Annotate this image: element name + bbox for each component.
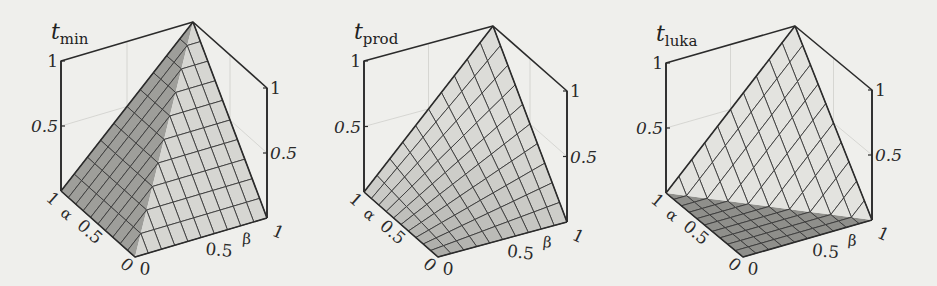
surface-plot-prod: 0.510.5100.51α00.51βtprod [334,19,597,279]
beta-tick: 0 [442,258,455,279]
z-tick-left: 1 [652,53,663,73]
z-tick-left: 1 [350,51,361,71]
alpha-axis-label: α [360,204,379,224]
alpha-tick: 0 [724,253,745,275]
beta-tick: 0.5 [811,240,840,263]
z-tick-right: 1 [875,80,886,100]
alpha-tick: 1 [647,189,668,211]
alpha-tick: 1 [345,188,366,210]
z-tick-left: 0.5 [636,118,663,138]
beta-tick: 1 [269,220,287,243]
beta-axis-label: β [847,231,858,250]
z-tick-right: 1 [270,78,281,98]
alpha-tick: 0 [116,253,137,275]
alpha-axis-label: α [57,204,77,224]
z-tick-right: 1 [570,81,581,101]
beta-tick: 0 [747,258,760,279]
plot-title: tmin [51,19,89,48]
beta-tick: 0.5 [506,241,535,264]
beta-tick: 0.5 [205,239,234,262]
plot-title: tprod [354,19,399,48]
three-surface-plots: 0.510.5100.51α00.51βtmin0.510.5100.51α00… [0,0,937,286]
beta-tick: 1 [874,222,892,245]
z-tick-left: 0.5 [334,117,361,137]
z-tick-right: 0.5 [875,145,902,165]
beta-axis-label: β [542,233,553,252]
beta-tick: 0 [139,258,152,279]
beta-tick: 1 [569,224,587,247]
surface-plot-min: 0.510.5100.51α00.51βtmin [31,19,297,279]
z-tick-right: 0.5 [570,147,597,167]
alpha-tick: 1 [42,187,63,209]
z-tick-left: 0.5 [31,116,58,136]
alpha-tick: 0 [419,253,440,275]
alpha-axis-label: α [662,205,681,225]
figure: 0.510.5100.51α00.51βtmin0.510.5100.51α00… [0,0,937,286]
z-tick-left: 1 [47,51,58,71]
surface-plot-luka: 0.510.5100.51α00.51βtluka [636,21,902,279]
plot-title: tluka [656,21,697,50]
beta-axis-label: β [242,230,252,249]
z-tick-right: 0.5 [270,143,297,163]
